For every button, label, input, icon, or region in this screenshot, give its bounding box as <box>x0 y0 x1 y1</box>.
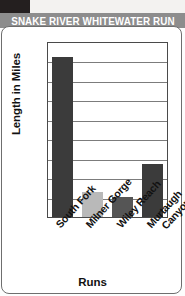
y-axis-title: Length in Miles <box>10 34 22 154</box>
page-top-margin <box>30 0 185 13</box>
bar[interactable] <box>52 57 73 217</box>
x-axis-tick-group: South ForkMilner GorgeWiley ReachMurtaug… <box>47 220 168 272</box>
scan-edge-artifact <box>0 0 30 14</box>
bar-slot <box>48 43 78 217</box>
chart-title: SNAKE RIVER WHITEWATER RUN <box>11 15 174 27</box>
x-axis-title: Runs <box>0 276 185 288</box>
chart-page: SNAKE RIVER WHITEWATER RUN Length in Mil… <box>0 0 185 296</box>
